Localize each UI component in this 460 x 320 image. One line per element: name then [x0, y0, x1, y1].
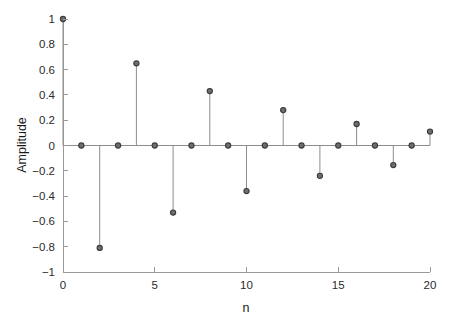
data-point-marker	[336, 143, 341, 148]
data-point-marker	[281, 107, 286, 112]
x-tick-label: 10	[240, 279, 253, 291]
data-point-marker	[244, 188, 249, 193]
y-tick-label: 1	[49, 13, 55, 25]
x-tick-label: 0	[60, 279, 66, 291]
data-point-marker	[115, 143, 120, 148]
data-point-marker	[97, 245, 102, 250]
y-tick-label: 0.2	[39, 114, 55, 126]
data-point-marker	[189, 143, 194, 148]
y-axis-title: Amplitude	[15, 117, 29, 173]
data-point-marker	[262, 143, 267, 148]
y-tick-label: 0.6	[39, 64, 55, 76]
data-point-marker	[391, 163, 396, 168]
data-point-marker	[134, 61, 139, 66]
stem-plot-figure: 05101520 −1−0.8−0.6−0.4−0.200.20.40.60.8…	[0, 0, 460, 320]
y-tick-label: 0	[49, 140, 55, 152]
data-point-marker	[409, 143, 414, 148]
y-tick-label: 0.8	[39, 38, 55, 50]
data-point-marker	[317, 173, 322, 178]
y-tick-label: −0.8	[32, 241, 55, 253]
data-point-marker	[207, 89, 212, 94]
y-tick-label: −0.4	[32, 190, 55, 202]
x-axis-tick-labels: 05101520	[60, 267, 437, 291]
y-tick-label: 0.4	[39, 89, 56, 101]
data-point-marker	[171, 210, 176, 215]
data-point-marker	[299, 143, 304, 148]
x-tick-label: 5	[152, 279, 158, 291]
stem-series	[60, 16, 432, 250]
plot-canvas: 05101520 −1−0.8−0.6−0.4−0.200.20.40.60.8…	[0, 0, 460, 320]
y-tick-label: −0.2	[32, 165, 55, 177]
data-point-marker	[152, 143, 157, 148]
data-point-marker	[354, 121, 359, 126]
data-point-marker	[427, 129, 432, 134]
y-tick-label: −0.6	[32, 215, 55, 227]
data-point-marker	[79, 143, 84, 148]
x-tick-label: 20	[424, 279, 437, 291]
y-tick-label: −1	[42, 266, 55, 278]
data-point-marker	[226, 143, 231, 148]
x-tick-label: 15	[332, 279, 345, 291]
x-axis-title: n	[243, 301, 250, 315]
data-point-marker	[372, 143, 377, 148]
